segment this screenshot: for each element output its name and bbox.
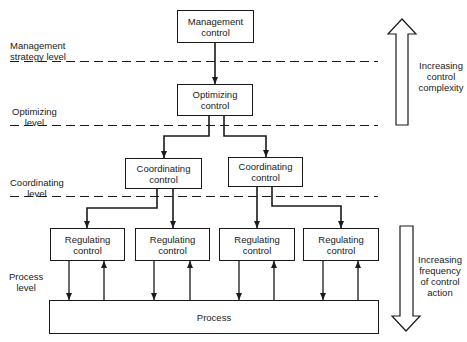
level-label-process: Process level — [9, 271, 43, 293]
level-label-management: Management strategy level — [10, 40, 66, 62]
level-label-coordinating: Coordinating level — [10, 177, 64, 199]
regulating-control-box-1: Regulating control — [50, 228, 125, 261]
coordinating-control-box-right: Coordinating control — [228, 157, 303, 187]
increasing-frequency-label: Increasing frequency of control action — [414, 254, 466, 298]
increasing-complexity-arrow-icon — [388, 19, 416, 125]
level-label-optimizing: Optimizing level — [12, 106, 57, 128]
regulating-control-box-2: Regulating control — [135, 228, 210, 261]
increasing-complexity-label: Increasing control complexity — [415, 60, 467, 93]
optimizing-control-box: Optimizing control — [177, 84, 253, 116]
management-control-box: Management control — [177, 10, 254, 43]
regulating-control-box-3: Regulating control — [219, 228, 295, 261]
regulating-control-box-4: Regulating control — [303, 228, 379, 261]
coordinating-control-box-left: Coordinating control — [125, 158, 202, 189]
process-box: Process — [49, 300, 379, 334]
